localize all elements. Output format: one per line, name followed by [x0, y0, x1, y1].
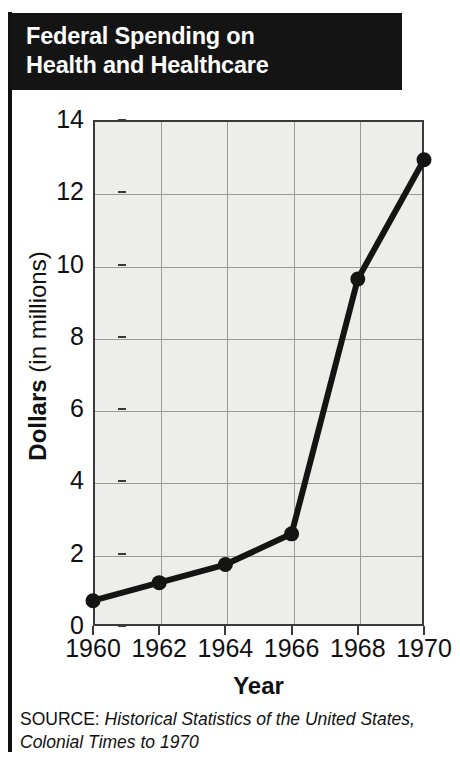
y-axis-tick-mark [118, 119, 126, 121]
y-axis-tick-mark [118, 408, 126, 410]
series-line-spending [93, 160, 424, 601]
data-point-marker [86, 593, 101, 608]
figure-container: Federal Spending on Health and Healthcar… [0, 0, 460, 766]
x-axis-tick-label: 1970 [379, 636, 460, 661]
y-axis-tick-label: 12 [40, 179, 84, 204]
chart-area: 02468101214 196019621964196619681970 Dol… [0, 96, 460, 696]
y-axis-tick-mark [118, 191, 126, 193]
x-axis-tick-mark [224, 626, 226, 635]
data-point-marker [350, 272, 365, 287]
y-axis-tick-mark [118, 553, 126, 555]
series-markers [86, 152, 432, 608]
y-axis-title-rest: (in millions) [24, 251, 51, 379]
x-axis-tick-mark [92, 626, 94, 635]
chart-title-line-2: Health and Healthcare [26, 51, 402, 80]
data-point-marker [152, 575, 167, 590]
data-point-marker [417, 152, 432, 167]
y-axis-tick-mark [118, 480, 126, 482]
chart-title-line-1: Federal Spending on [26, 22, 402, 51]
data-point-marker [218, 557, 233, 572]
data-point-marker [284, 526, 299, 541]
y-axis-tick-label: 2 [40, 541, 84, 566]
x-axis-title: Year [93, 672, 424, 700]
source-note: SOURCE: Historical Statistics of the Uni… [20, 708, 440, 754]
x-axis-tick-mark [357, 626, 359, 635]
y-axis-tick-label: 14 [40, 107, 84, 132]
y-axis-tick-mark [118, 336, 126, 338]
x-axis-tick-mark [291, 626, 293, 635]
x-axis-tick-mark [423, 626, 425, 635]
chart-title-banner: Federal Spending on Health and Healthcar… [12, 13, 402, 90]
y-axis-tick-mark [118, 625, 126, 627]
y-axis-title-strong: Dollars [24, 379, 51, 460]
series-overlay [93, 120, 424, 626]
source-label: SOURCE: [20, 709, 100, 729]
x-axis-tick-mark [158, 626, 160, 635]
y-axis-tick-mark [118, 264, 126, 266]
y-axis-title: Dollars (in millions) [24, 226, 52, 486]
